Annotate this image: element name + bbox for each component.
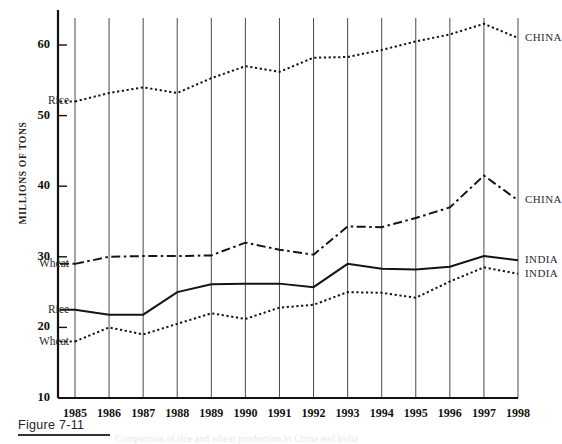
- series-left-label-china-rice: Rice: [25, 94, 69, 106]
- y-tick-label-60: 60: [16, 37, 50, 52]
- x-tick-label-1998: 1998: [495, 406, 541, 421]
- series-right-label-india-rice: INDIA: [525, 253, 558, 265]
- series-left-label-india-rice: Rice: [25, 303, 69, 315]
- y-tick-label-20: 20: [16, 319, 50, 334]
- series-right-label-china-rice: CHINA: [525, 31, 562, 43]
- series-line-china-rice: [75, 24, 518, 102]
- y-tick-label-40: 40: [16, 178, 50, 193]
- gridlines: [75, 18, 518, 398]
- series-right-label-china-wheat: CHINA: [525, 193, 562, 205]
- y-tick-label-50: 50: [16, 108, 50, 123]
- series-right-label-india-wheat: INDIA: [525, 267, 558, 279]
- series-line-india-wheat: [75, 267, 518, 341]
- series-left-label-china-wheat: Wheat: [25, 257, 69, 269]
- series-left-label-india-wheat: Wheat: [25, 335, 69, 347]
- chart-plot-area: MILLIONS OF TONS 60504030201019851986198…: [0, 0, 557, 410]
- series-lines: [60, 24, 518, 342]
- y-tick-label-10: 10: [16, 390, 50, 405]
- caption-overflow-text: Comparison of rice and wheat production …: [115, 433, 358, 444]
- series-line-china-wheat: [75, 176, 518, 264]
- figure-caption-label: Figure 7-11: [18, 418, 110, 432]
- caption-underline: [18, 434, 110, 436]
- figure-caption: Figure 7-11: [18, 418, 110, 436]
- chart-svg: [0, 0, 557, 410]
